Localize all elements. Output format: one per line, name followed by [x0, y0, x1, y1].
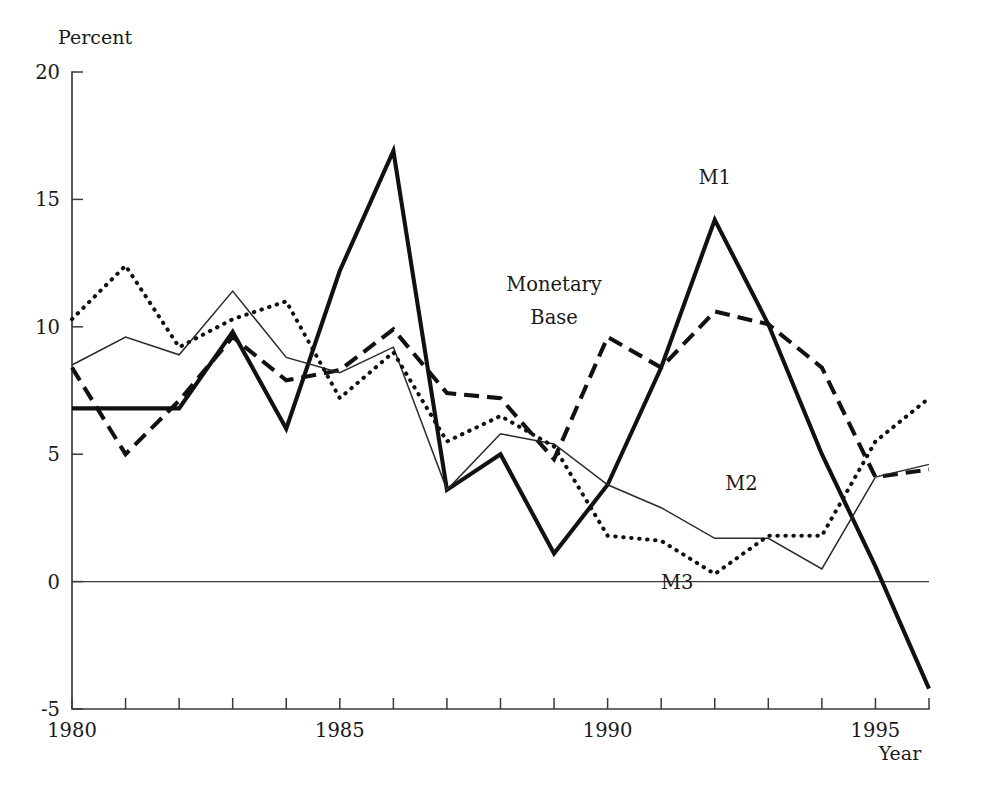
series-line-m3	[72, 266, 929, 574]
y-axis-title: Percent	[58, 26, 132, 48]
y-axis-tick-labels: -505101520	[35, 61, 60, 721]
annotation-m1: M1	[699, 166, 731, 189]
x-tick-label: 1995	[851, 719, 901, 742]
annotation-base: Base	[530, 306, 578, 329]
series-line-m1	[72, 151, 929, 689]
y-tick-label: 20	[35, 61, 60, 84]
axis-frame	[72, 72, 929, 709]
line-chart: -505101520 1980198519901995 Percent Year…	[0, 0, 989, 792]
annotation-m2: M2	[725, 472, 757, 495]
y-tick-label: 15	[35, 188, 60, 211]
x-tick-label: 1985	[315, 719, 365, 742]
y-tick-label: 10	[35, 316, 60, 339]
annotation-m3: M3	[661, 571, 693, 594]
annotation-monetary: Monetary	[506, 273, 602, 296]
x-axis-title: Year	[878, 742, 922, 764]
x-tick-label: 1990	[583, 719, 633, 742]
y-tick-label: 0	[48, 571, 60, 594]
series-line-m2	[72, 291, 929, 569]
x-tick-label: 1980	[47, 719, 97, 742]
x-axis-ticks	[72, 698, 929, 709]
x-axis-tick-labels: 1980198519901995	[47, 719, 900, 742]
y-tick-label: -5	[41, 698, 60, 721]
y-tick-label: 5	[48, 443, 60, 466]
chart-container: -505101520 1980198519901995 Percent Year…	[0, 0, 989, 792]
data-series	[72, 151, 929, 689]
axes	[72, 72, 929, 709]
y-axis-ticks	[72, 72, 83, 709]
